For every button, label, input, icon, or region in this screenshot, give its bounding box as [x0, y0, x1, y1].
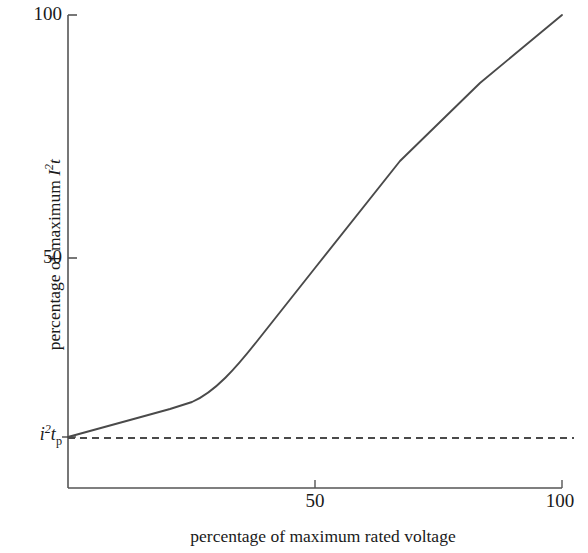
x-axis-title: percentage of maximum rated voltage: [88, 528, 558, 546]
x-tick-label-100: 100: [534, 491, 586, 510]
figure-container: 100 50 i2tp 50 100 percentage of maximum…: [0, 0, 588, 553]
i2tp-symbol-subscript: p: [56, 434, 62, 448]
y-axis-title-text: percentage of maximum: [44, 176, 64, 350]
y-tick-label-100: 100: [18, 4, 62, 23]
y-tick-label-i2tp: i2tp: [6, 423, 62, 447]
chart-canvas: [0, 0, 588, 553]
y-axis-symbol-I: I: [44, 170, 64, 176]
y-axis-symbol-exponent: 2: [42, 164, 56, 170]
y-axis-title: percentage of maximum I2t: [44, 105, 63, 405]
x-tick-label-50: 50: [292, 491, 338, 510]
data-series-line: [68, 15, 562, 437]
y-axis-symbol-t: t: [44, 159, 64, 164]
